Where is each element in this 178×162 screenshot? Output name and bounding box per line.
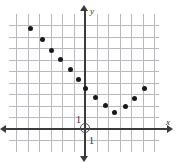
data-point [83,86,88,91]
grid-line-horizontal [9,117,159,118]
grid-line-horizontal [9,106,159,107]
coordinate-plane-figure: y x 1 1 [0,0,178,162]
data-point [76,77,81,82]
grid-line-horizontal [9,129,159,130]
data-point [123,104,128,109]
grid-line-horizontal [9,71,159,72]
y-unit-label: 1 [76,115,81,125]
y-axis-label: y [90,7,94,16]
x-axis-label: x [166,118,170,127]
grid-line-horizontal [9,152,159,153]
grid-line-horizontal [9,83,159,84]
y-axis-up-arrow-icon [80,5,88,11]
data-point [132,96,137,101]
data-point [49,48,54,53]
data-point [93,95,98,100]
data-point [68,67,73,72]
grid-line-horizontal [9,37,159,38]
grid-line-horizontal [9,140,159,141]
y-axis-down-arrow-icon [80,156,88,162]
grid-line-horizontal [9,60,159,61]
x-axis-left-arrow-icon [0,125,6,133]
grid-line-horizontal [9,48,159,49]
grid-line-horizontal [9,94,159,95]
grid-background [9,14,159,152]
x-unit-label: 1 [89,136,94,146]
